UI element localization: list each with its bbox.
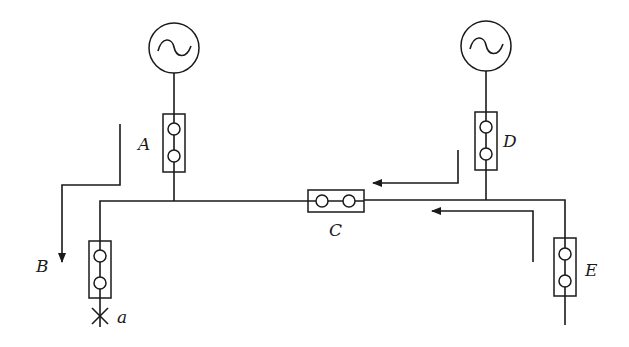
label-B: B	[35, 256, 49, 276]
contact-icon	[559, 275, 571, 287]
label-C: C	[329, 220, 342, 240]
contact-icon	[168, 123, 180, 135]
breaker-E: E	[554, 238, 598, 325]
contact-icon	[94, 277, 106, 289]
contact-icon	[480, 148, 492, 160]
breaker-A: A	[136, 114, 185, 201]
arrow-left-icon	[373, 150, 458, 183]
label-E: E	[584, 260, 598, 280]
arrow-from-E	[432, 211, 533, 262]
breaker-C: C	[308, 190, 364, 240]
label-D: D	[502, 131, 517, 151]
breaker-D: D	[475, 112, 517, 200]
contact-icon	[316, 195, 328, 207]
breaker-feeder-a: a	[89, 241, 127, 327]
contact-icon	[559, 248, 571, 260]
contact-icon	[168, 150, 180, 162]
power-system-diagram: A D C E	[0, 0, 629, 347]
contact-icon	[480, 121, 492, 133]
label-A: A	[136, 134, 150, 154]
arrow-left-icon	[432, 211, 533, 262]
contact-icon	[94, 250, 106, 262]
label-fault-a: a	[117, 307, 127, 327]
generator-right	[461, 21, 511, 112]
arrow-from-D	[373, 150, 458, 183]
contact-icon	[343, 195, 355, 207]
generator-left	[149, 23, 199, 114]
